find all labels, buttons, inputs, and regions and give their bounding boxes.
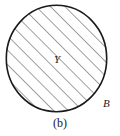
region-label-b: B [103, 98, 110, 109]
figure-container: Y B (b) [0, 0, 120, 136]
region-label-y: Y [54, 54, 60, 65]
figure-caption: (b) [0, 117, 120, 130]
